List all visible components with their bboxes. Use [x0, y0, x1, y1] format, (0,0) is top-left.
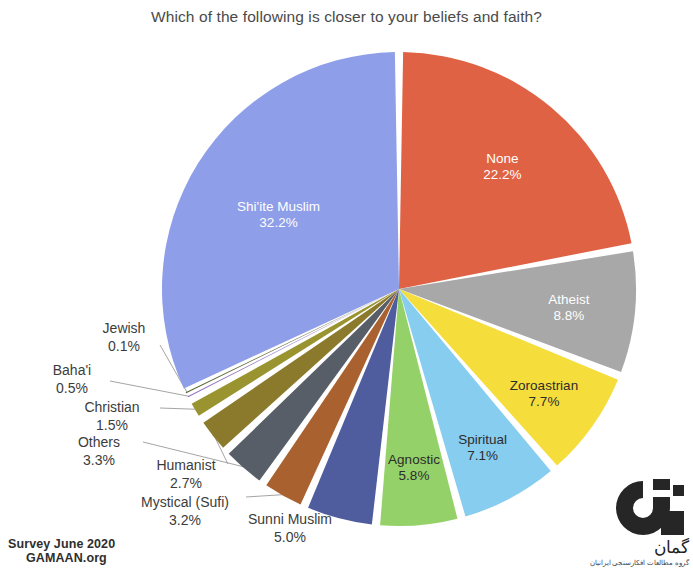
leader-line	[246, 495, 284, 497]
slice-label-name: Baha'i	[53, 362, 91, 378]
gamaan-logo: گمان گروه مطالعات افکارسنجی ایرانیان	[595, 475, 691, 575]
slice-label-name: None	[486, 151, 518, 166]
slice-label-name: Jewish	[103, 320, 146, 336]
slice-label-percent: 0.1%	[108, 338, 140, 354]
slice-label-percent: 7.7%	[529, 394, 560, 409]
leader-line	[110, 381, 189, 396]
slice-label-percent: 1.5%	[96, 417, 128, 433]
slice-label-name: Atheist	[548, 292, 590, 307]
slice-label-name: Sunni Muslim	[248, 511, 332, 527]
slice-label-percent: 0.5%	[56, 380, 88, 396]
slice-label-percent: 22.2%	[483, 167, 521, 182]
gamaan-g-icon	[595, 475, 691, 541]
slice-label-percent: 32.2%	[259, 215, 297, 230]
slice-label-name: Agnostic	[388, 452, 440, 467]
slice-label-name: Zoroastrian	[510, 378, 578, 393]
slice-label-percent: 3.2%	[169, 512, 201, 528]
slice-label-name: Others	[78, 434, 120, 450]
slice-label-percent: 8.8%	[553, 308, 584, 323]
pie-chart-svg: None22.2%Atheist8.8%Zoroastrian7.7%Spiri…	[0, 0, 693, 575]
slice-label-percent: 3.3%	[83, 452, 115, 468]
logo-wordmark-fa: گمان	[654, 537, 689, 558]
survey-credit: Survey June 2020 GAMAAN.org	[8, 537, 115, 565]
slice-label-name: Spiritual	[458, 432, 507, 447]
pie-chart: None22.2%Atheist8.8%Zoroastrian7.7%Spiri…	[0, 0, 693, 575]
logo-subtitle-fa: گروه مطالعات افکارسنجی ایرانیان	[590, 559, 689, 567]
slice-label-percent: 5.8%	[399, 468, 430, 483]
slice-label-percent: 5.0%	[274, 529, 306, 545]
slice-label-percent: 2.7%	[170, 475, 202, 491]
leader-line	[160, 408, 196, 409]
slice-label-name: Shi'ite Muslim	[237, 199, 320, 214]
slice-label-name: Mystical (Sufi)	[141, 494, 229, 510]
survey-credit-line2: GAMAAN.org	[8, 551, 115, 565]
survey-credit-line1: Survey June 2020	[8, 537, 115, 551]
slice-label-name: Christian	[84, 399, 139, 415]
slice-label-percent: 7.1%	[467, 448, 498, 463]
slice-label-name: Humanist	[156, 457, 215, 473]
